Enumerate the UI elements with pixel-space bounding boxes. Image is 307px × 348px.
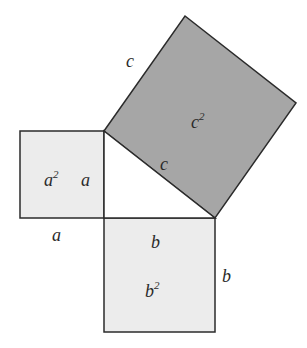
- a-side-label-inner: a: [81, 170, 90, 190]
- c-side-label-outer: c: [126, 51, 134, 71]
- a-side-label-below: a: [52, 225, 61, 245]
- c-side-label-inner: c: [160, 154, 168, 174]
- b-side-label-right: b: [222, 266, 231, 286]
- b-side-label-inner: b: [151, 232, 160, 252]
- a-squared-square: [20, 131, 104, 218]
- pythagorean-diagram: a2 a a b b2 b c c2 c: [0, 0, 307, 348]
